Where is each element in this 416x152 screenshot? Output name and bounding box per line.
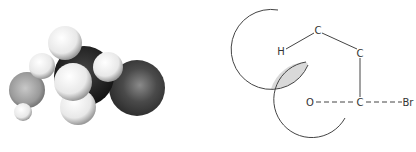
atom-label-h: H [277, 46, 285, 57]
atom-label-c: C [357, 48, 364, 59]
atom-label-c: C [357, 97, 364, 108]
space-filling-model [9, 26, 165, 125]
hydrogen-sphere [93, 52, 123, 82]
atom-label-br: Br [403, 97, 415, 108]
atom-label-o: O [306, 97, 314, 108]
hydrogen-sphere [14, 103, 32, 121]
hydrogen-sphere [54, 63, 92, 101]
hydrogen-sphere [48, 26, 82, 60]
figure-canvas: C H C C O Br [0, 0, 416, 152]
bond-c-c-upper [322, 33, 357, 49]
bond-h-c [286, 33, 314, 49]
atom-label-c: C [315, 25, 322, 36]
hydrogen-sphere [29, 53, 55, 79]
